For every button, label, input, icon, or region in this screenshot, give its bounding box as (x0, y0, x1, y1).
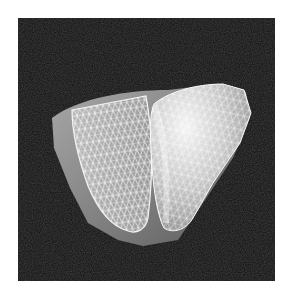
heart-mesh-render (18, 18, 275, 281)
render-viewport (18, 18, 275, 281)
